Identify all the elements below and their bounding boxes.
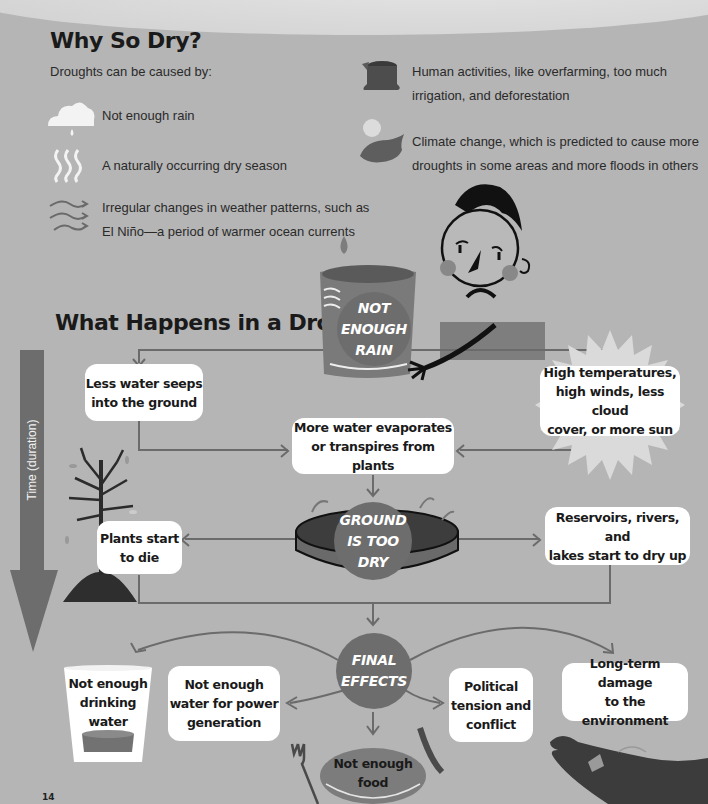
plants-die-box: Plants start to die [97, 521, 182, 574]
box-line: cover, or more sun [540, 420, 680, 439]
box-line: drinking [68, 693, 147, 712]
evaporates-box: More water evaporates or transpires from… [292, 418, 454, 474]
box-line: Plants start [100, 529, 179, 548]
box-line: Not enough [333, 754, 412, 773]
environment-damage-box: Long-term damage to the environment [562, 663, 688, 721]
box-line: high winds, less cloud [540, 382, 680, 420]
node-line: DRY [339, 552, 406, 573]
box-line: into the ground [86, 393, 203, 412]
node-line: RAIN [341, 340, 407, 361]
ground-too-dry-node: GROUND IS TOO DRY [334, 502, 412, 580]
final-effects-node: FINAL EFFECTS [336, 633, 412, 709]
power-generation-box: Not enough water for power generation [168, 666, 280, 741]
node-line: IS TOO [339, 531, 406, 552]
box-line: Long-term damage [562, 654, 688, 692]
drinking-water-label: Not enough drinking water [66, 672, 150, 732]
high-temps-box: High temperatures, high winds, less clou… [540, 366, 680, 436]
box-line: or transpires from plants [292, 437, 454, 475]
box-line: Reservoirs, rivers, and [545, 508, 690, 546]
man-arm [400, 260, 510, 380]
political-tension-box: Political tension and conflict [449, 668, 533, 742]
box-line: to the environment [562, 692, 688, 730]
node-line: NOT [341, 298, 407, 319]
reservoirs-box: Reservoirs, rivers, and lakes start to d… [545, 507, 690, 565]
box-line: More water evaporates [292, 418, 454, 437]
box-line: Political [451, 677, 531, 696]
node-line: GROUND [339, 510, 406, 531]
not-enough-food-label: Not enough food [325, 752, 421, 794]
box-line: Not enough [68, 674, 147, 693]
node-line: FINAL [341, 650, 407, 671]
box-line: generation [170, 713, 279, 732]
box-line: Not enough [170, 675, 279, 694]
box-line: water for power [170, 694, 279, 713]
box-line: High temperatures, [540, 363, 680, 382]
less-water-box: Less water seeps into the ground [85, 364, 203, 421]
water-drop-icon [337, 236, 351, 256]
node-line: ENOUGH [341, 319, 407, 340]
page-number: 14 [42, 792, 55, 802]
box-line: food [333, 773, 412, 792]
box-line: to die [100, 548, 179, 567]
box-line: Less water seeps [86, 374, 203, 393]
box-line: conflict [451, 715, 531, 734]
box-line: tension and [451, 696, 531, 715]
fish-icon [548, 728, 708, 804]
box-line: lakes start to dry up [545, 546, 690, 565]
box-line: water [68, 712, 147, 731]
node-line: EFFECTS [341, 671, 407, 692]
